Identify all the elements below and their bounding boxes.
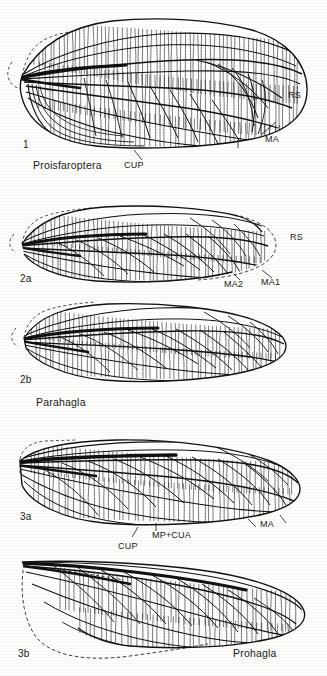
wing-outline-dashed-tip-2a [10,234,16,253]
vein-label-cup-fig3a: CUP [118,542,138,551]
figure-2b-wing-parahagla [0,296,327,396]
vein-label-rs-fig2a: RS [290,233,303,242]
venation-network-3b [20,562,302,651]
figure-number-3a: 3a [20,512,32,522]
wing-drawing-3a [0,433,327,538]
leader-line-cup-1 [134,150,142,160]
vein-label-ma-fig3a: MA [260,520,274,529]
taxon-label-proisfaroptera: Proisfaroptera [33,160,102,171]
vein-label-mp-cua-fig3a: MP+CUA [152,531,191,540]
figure-plate: 1 Proisfaroptera RS MA CUP [0,0,327,676]
leader-line-ma-right-3a [280,515,286,523]
vein-label-ma1-fig2a: MA1 [261,278,280,287]
leader-line-cup-3a [132,527,138,537]
wing-outline-3a [20,440,300,525]
wing-outline-dashed-apex-2a [198,216,276,280]
vein-label-ma-fig1: MA [265,135,279,144]
figure-3b-wing-prohagla [0,552,327,672]
figure-number-2a: 2a [20,274,32,284]
figure-number-2b: 2b [20,375,32,385]
taxon-label-prohagla: Prohagla [233,648,277,659]
figure-number-3b: 3b [18,649,30,659]
figure-number-1: 1 [23,140,29,150]
vein-label-rs-fig1: RS [288,91,301,100]
taxon-label-parahagla: Parahagla [36,397,86,408]
wing-drawing-3b [0,552,327,672]
wing-outline-dashed-tip-2b [12,328,18,347]
vein-label-cup-fig1: CUP [124,161,144,170]
leader-line-ma-3a [248,519,256,527]
wing-drawing-2b [0,296,327,396]
vein-label-ma2-fig2a: MA2 [224,280,243,289]
figure-3a-wing [0,433,327,538]
